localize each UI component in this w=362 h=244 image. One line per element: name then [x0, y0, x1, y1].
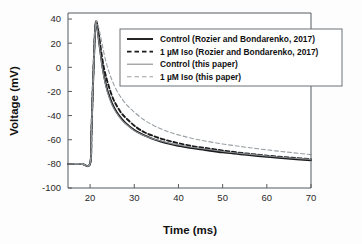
- legend-label-0: Control (Rozier and Bondarenko, 2017): [160, 34, 315, 44]
- x-tick-label: 50: [217, 192, 228, 203]
- y-tick-label: -100: [42, 182, 61, 193]
- y-tick-label: 40: [50, 13, 61, 24]
- chart-figure: 203040506070 40200-20-40-60-80-100 Time …: [0, 0, 362, 244]
- legend-label-3: 1 µM Iso (this paper): [160, 72, 241, 82]
- x-tick-label: 40: [173, 192, 184, 203]
- x-tick-labels: 203040506070: [85, 192, 316, 203]
- y-tick-label: -80: [47, 158, 61, 169]
- x-tick-label: 60: [262, 192, 273, 203]
- y-tick-label: 0: [56, 62, 61, 73]
- y-tick-label: -40: [47, 110, 61, 121]
- legend-label-1: 1 µM Iso (Rozier and Bondarenko, 2017): [160, 47, 319, 57]
- y-axis-title: Voltage (mV): [8, 66, 20, 136]
- y-tick-label: -60: [47, 134, 61, 145]
- legend: Control (Rozier and Bondarenko, 2017)1 µ…: [120, 29, 342, 86]
- x-tick-label: 20: [85, 192, 96, 203]
- legend-label-2: Control (this paper): [160, 59, 238, 69]
- y-tick-labels: 40200-20-40-60-80-100: [42, 13, 61, 193]
- chart-svg: 203040506070 40200-20-40-60-80-100 Time …: [0, 0, 362, 244]
- y-tick-label: 20: [50, 38, 61, 49]
- x-tick-label: 30: [129, 192, 140, 203]
- x-axis-title: Time (ms): [163, 224, 217, 236]
- y-tick-label: -20: [47, 86, 61, 97]
- x-tick-label: 70: [306, 192, 317, 203]
